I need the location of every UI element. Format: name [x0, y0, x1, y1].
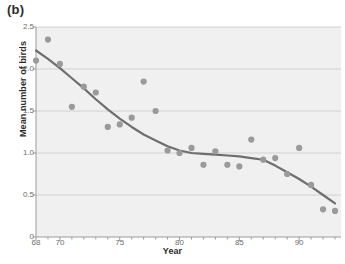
data-point	[200, 162, 206, 168]
plot-background	[36, 27, 341, 237]
data-point	[45, 37, 51, 43]
data-point	[153, 108, 159, 114]
data-point	[212, 148, 218, 154]
data-point	[320, 206, 326, 212]
data-point	[272, 155, 278, 161]
data-point	[176, 150, 182, 156]
x-axis-title: Year	[0, 246, 345, 256]
data-point	[164, 147, 170, 153]
data-point	[105, 124, 111, 130]
data-point	[57, 61, 63, 67]
data-point	[117, 121, 123, 127]
data-point	[248, 136, 254, 142]
data-point	[260, 157, 266, 163]
y-axis-tick-label: 0.5	[8, 191, 34, 199]
data-point	[141, 79, 147, 85]
data-point	[224, 162, 230, 168]
data-point	[296, 145, 302, 151]
y-axis-title: Mean number of birds	[18, 19, 28, 159]
data-point	[69, 104, 75, 110]
data-point	[284, 171, 290, 177]
data-point	[188, 145, 194, 151]
data-point	[129, 115, 135, 121]
data-point	[81, 84, 87, 90]
scatter-plot	[0, 0, 345, 264]
data-point	[308, 182, 314, 188]
data-point	[332, 208, 338, 214]
chart-figure: 00.51.01.52.02.5 687075808590 Mean numbe…	[0, 0, 345, 264]
data-point	[236, 163, 242, 169]
data-point	[93, 89, 99, 95]
